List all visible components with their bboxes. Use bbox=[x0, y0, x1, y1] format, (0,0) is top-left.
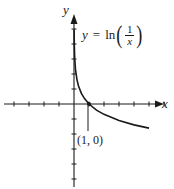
equation-label: y = ln ( 1 x ) bbox=[82, 22, 144, 48]
equation-lhs: y bbox=[82, 27, 88, 43]
y-axis-arrow-icon bbox=[71, 14, 78, 24]
equation-fraction: 1 x bbox=[125, 24, 135, 47]
left-paren-icon: ( bbox=[117, 22, 123, 48]
fraction-numerator: 1 bbox=[125, 24, 135, 36]
y-axis-label: y bbox=[63, 2, 69, 18]
equation-equals: = bbox=[93, 27, 100, 43]
right-paren-icon: ) bbox=[137, 22, 143, 48]
equation-fn: ln bbox=[105, 27, 115, 43]
point-label: (1, 0) bbox=[77, 133, 103, 148]
x-axis-label: x bbox=[162, 96, 168, 112]
fraction-denominator: x bbox=[127, 36, 132, 47]
